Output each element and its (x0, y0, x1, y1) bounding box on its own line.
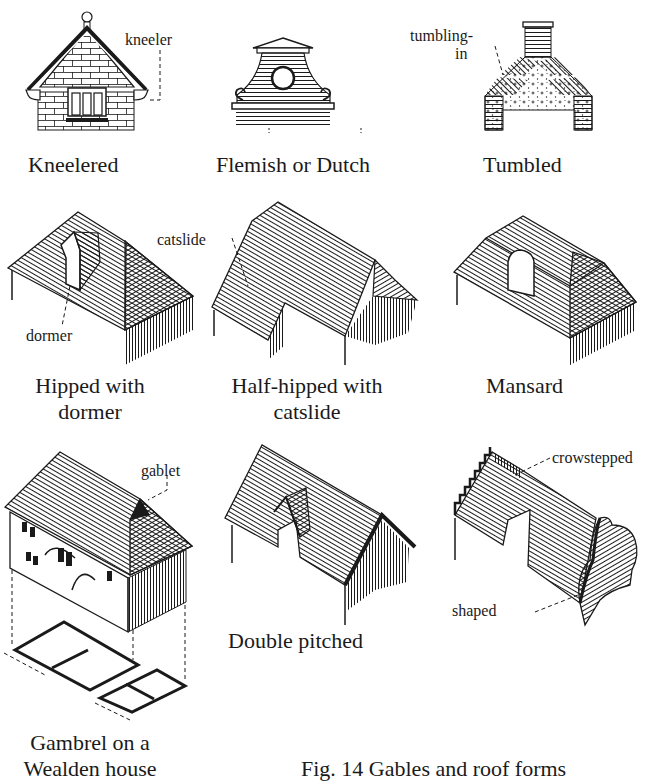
annotation-gablet: gablet (141, 462, 180, 480)
double-pitched-roof-drawing (225, 445, 415, 625)
caption-tumbled: Tumbled (483, 152, 562, 177)
figure-caption: Fig. 14 Gables and roof forms (301, 756, 566, 781)
caption-flemish: Flemish or Dutch (216, 152, 370, 177)
caption-hipped-line2: dormer (20, 399, 160, 424)
kneelered-gable-drawing (26, 12, 160, 130)
caption-hipped-line1: Hipped with (20, 373, 160, 398)
caption-kneelered: Kneelered (28, 152, 118, 177)
caption-half-hipped-line1: Half-hipped with (212, 373, 402, 398)
caption-mansard: Mansard (486, 373, 563, 398)
annotation-catslide: catslide (157, 231, 206, 249)
annotation-tumbling-in-line2: in (455, 45, 467, 63)
annotation-tumbling-in-line1: tumbling- (410, 27, 473, 45)
annotation-shaped: shaped (452, 602, 496, 620)
flemish-gable-drawing (232, 38, 361, 133)
tumbled-gable-drawing (485, 22, 592, 130)
annotation-dormer: dormer (26, 327, 72, 345)
annotation-kneeler: kneeler (125, 31, 172, 49)
caption-double-pitched: Double pitched (228, 628, 363, 653)
crowstepped-shaped-drawing (455, 447, 637, 625)
gambrel-wealden-drawing (4, 452, 192, 720)
caption-half-hipped-line2: catslide (212, 399, 402, 424)
mansard-roof-drawing (454, 216, 636, 365)
caption-gambrel-line2: Wealden house (0, 756, 180, 781)
caption-gambrel-line1: Gambrel on a (0, 730, 180, 755)
annotation-crowstepped: crowstepped (552, 449, 633, 467)
half-hipped-roof-drawing (212, 202, 417, 365)
